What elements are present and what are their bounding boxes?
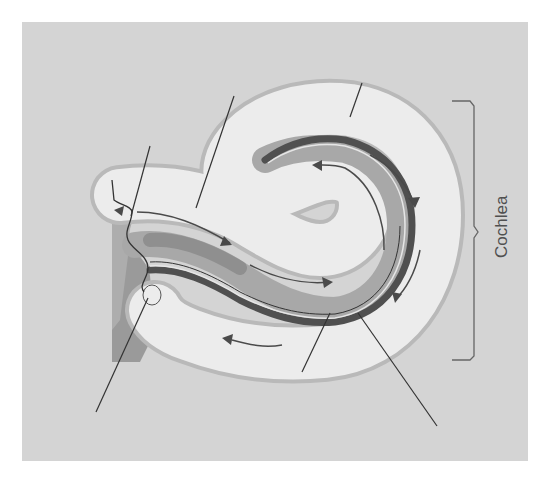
cochlea-label: Cochlea xyxy=(492,195,511,258)
cochlea-diagram: Cochlea xyxy=(0,0,552,479)
